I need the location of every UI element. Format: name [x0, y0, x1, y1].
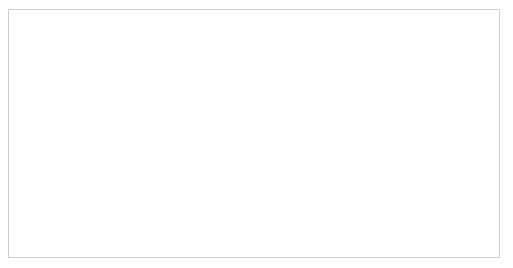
tissue-diagram-canvas	[0, 0, 513, 268]
tissue-axes-figure	[0, 0, 513, 268]
